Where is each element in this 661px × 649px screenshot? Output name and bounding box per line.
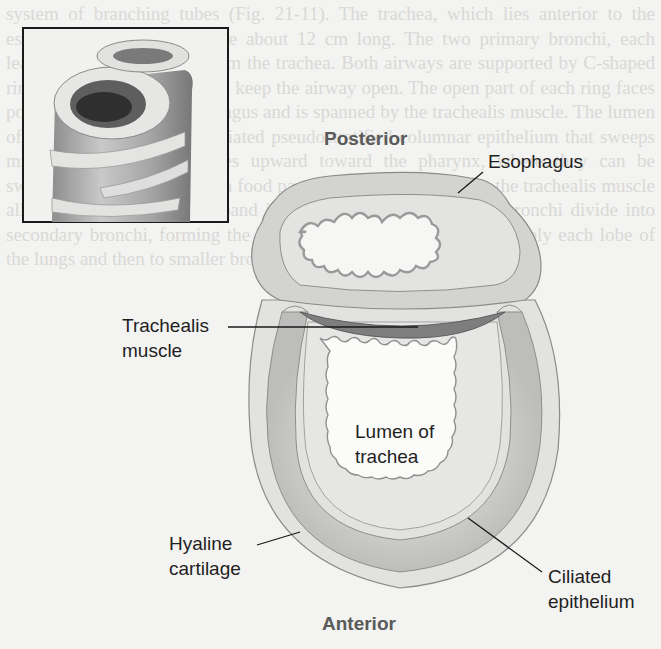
posterior-label: Posterior (324, 128, 407, 150)
hyaline-leader-line (257, 532, 300, 545)
trachea (249, 300, 560, 588)
esophagus-mucosa (299, 213, 440, 277)
hyaline-label-line2: cartilage (169, 557, 241, 581)
tracheal-segment-3d-inset (23, 28, 228, 222)
trachealis-label-line2: muscle (122, 339, 182, 363)
ciliated-label-line2: epithelium (548, 590, 635, 614)
lumen-label-line1: Lumen of (355, 420, 434, 444)
trachea-cross-section-diagram (0, 0, 661, 649)
trachealis-label-line1: Trachealis (122, 314, 209, 338)
hyaline-label-line1: Hyaline (169, 532, 232, 556)
ciliated-label-line1: Ciliated (548, 565, 611, 589)
anterior-label: Anterior (322, 613, 396, 635)
lumen-label-line2: trachea (355, 445, 418, 469)
esophagus (252, 172, 541, 309)
esophagus-label: Esophagus (488, 150, 583, 174)
